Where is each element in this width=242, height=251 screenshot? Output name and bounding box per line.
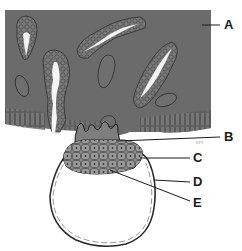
label-b: B bbox=[224, 130, 233, 143]
inner-cell-mass bbox=[63, 140, 142, 174]
label-e: E bbox=[193, 196, 202, 209]
artist-signature: KFT bbox=[196, 140, 204, 145]
label-c: C bbox=[193, 151, 202, 164]
implantation-diagram bbox=[0, 0, 242, 251]
label-d: D bbox=[193, 175, 202, 188]
label-a: A bbox=[224, 18, 233, 31]
